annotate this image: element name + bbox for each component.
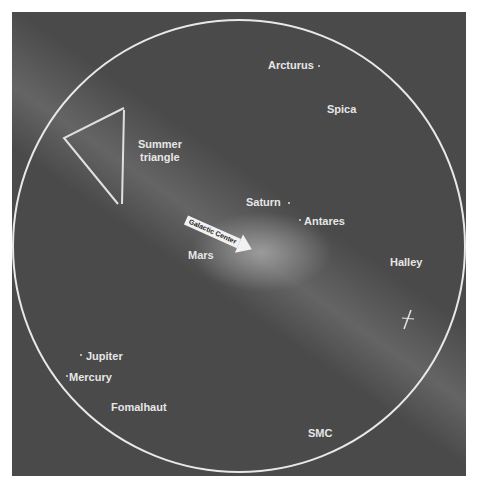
label-saturn: Saturn: [246, 196, 281, 209]
label-summer-triangle-1: Summer: [138, 138, 182, 151]
summer-triangle-side: [122, 110, 124, 204]
jupiter-star: [80, 354, 82, 356]
label-mercury: Mercury: [69, 371, 112, 384]
label-arcturus: Arcturus: [268, 59, 314, 72]
label-halley: Halley: [390, 256, 422, 269]
antares-star: [299, 219, 301, 221]
label-jupiter: Jupiter: [86, 350, 123, 363]
label-summer-triangle-2: triangle: [140, 151, 180, 164]
halley-comet-cross: [402, 318, 414, 319]
label-fomalhaut: Fomalhaut: [111, 401, 167, 414]
saturn-star: [288, 202, 290, 204]
mercury-star: [66, 375, 68, 377]
summer-triangle-lines: [64, 108, 124, 204]
label-antares: Antares: [304, 215, 345, 228]
label-smc: SMC: [308, 427, 332, 440]
label-mars: Mars: [188, 249, 214, 262]
label-spica: Spica: [327, 103, 356, 116]
arcturus-star: [318, 65, 320, 67]
halley-comet-mark: [404, 310, 411, 329]
